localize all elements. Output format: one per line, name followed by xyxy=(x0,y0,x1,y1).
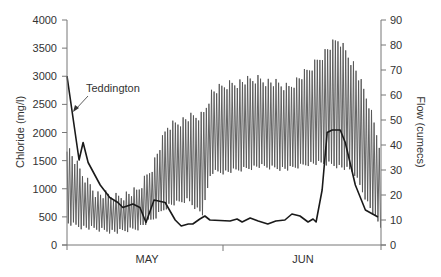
right-tick-label: 80 xyxy=(390,39,402,51)
right-tick-label: 0 xyxy=(390,239,396,251)
left-tick-label: 1000 xyxy=(33,183,57,195)
left-tick-label: 3000 xyxy=(33,70,57,82)
right-tick-label: 90 xyxy=(390,14,402,26)
right-axis-ticks: 0102030405060708090 xyxy=(381,14,402,251)
right-tick-label: 30 xyxy=(390,164,402,176)
right-tick-label: 50 xyxy=(390,114,402,126)
plot-area xyxy=(67,40,381,234)
left-tick-label: 2000 xyxy=(33,127,57,139)
right-tick-label: 70 xyxy=(390,64,402,76)
chart: 05001000150020002500300035004000 0102030… xyxy=(0,0,441,277)
left-tick-label: 4000 xyxy=(33,14,57,26)
right-axis-title: Flow (cumecs) xyxy=(415,96,427,168)
month-label-may: MAY xyxy=(135,253,159,265)
left-axis-ticks: 05001000150020002500300035004000 xyxy=(33,14,67,251)
left-axis-title: Chloride (mg/l) xyxy=(14,96,26,168)
right-tick-label: 60 xyxy=(390,89,402,101)
left-tick-label: 3500 xyxy=(33,42,57,54)
right-tick-label: 20 xyxy=(390,189,402,201)
left-tick-label: 0 xyxy=(51,239,57,251)
left-tick-label: 500 xyxy=(39,211,57,223)
annotation-arrow-icon xyxy=(73,105,79,112)
left-tick-label: 2500 xyxy=(33,98,57,110)
right-tick-label: 40 xyxy=(390,139,402,151)
annotation-leader-line xyxy=(76,96,88,109)
right-tick-label: 10 xyxy=(390,214,402,226)
annotation-label: Teddington xyxy=(86,82,140,94)
teddington-annotation: Teddington xyxy=(73,82,140,112)
left-tick-label: 1500 xyxy=(33,155,57,167)
chloride-series-line xyxy=(67,40,381,234)
month-label-jun: JUN xyxy=(292,253,313,265)
